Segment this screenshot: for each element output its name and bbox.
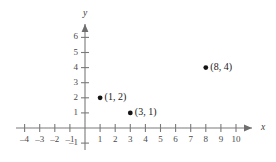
x-tick-label: 5 — [158, 134, 163, 144]
y-axis-ticks: –1123456 — [68, 31, 89, 147]
y-tick-label: –1 — [68, 137, 78, 147]
scatter-plot-svg: x y –4–3–2–112345678910 –1123456 (1, 2)(… — [0, 0, 276, 162]
y-axis-label: y — [82, 8, 88, 18]
data-point-marker — [98, 95, 103, 100]
x-tick-label: 3 — [128, 134, 133, 144]
y-axis-group: y — [82, 8, 89, 150]
data-point-label: (8, 4) — [210, 61, 232, 73]
y-tick-label: 1 — [74, 107, 79, 117]
x-axis-arrowhead — [244, 125, 252, 132]
x-tick-label: 1 — [98, 134, 103, 144]
x-tick-label: 7 — [188, 134, 193, 144]
x-tick-label: 9 — [219, 134, 224, 144]
x-axis-label: x — [260, 122, 266, 132]
y-tick-label: 3 — [74, 77, 79, 87]
x-tick-label: 6 — [173, 134, 178, 144]
y-tick-label: 6 — [74, 31, 79, 41]
y-tick-label: 2 — [74, 92, 79, 102]
x-tick-label: 10 — [232, 134, 242, 144]
x-tick-label: –4 — [19, 134, 30, 144]
x-tick-label: 8 — [204, 134, 209, 144]
x-axis-ticks: –4–3–2–112345678910 — [19, 124, 241, 144]
data-point-label: (3, 1) — [135, 106, 157, 118]
data-points: (1, 2)(3, 1)(8, 4) — [98, 61, 232, 118]
data-point-label: (1, 2) — [105, 91, 127, 103]
y-axis-arrowhead — [82, 24, 89, 32]
x-tick-label: –3 — [34, 134, 45, 144]
x-axis-group: x — [16, 122, 266, 132]
x-tick-label: –2 — [49, 134, 59, 144]
x-tick-label: 4 — [143, 134, 148, 144]
data-point-marker — [203, 65, 208, 70]
data-point-marker — [128, 111, 133, 116]
y-tick-label: 5 — [74, 47, 79, 57]
y-tick-label: 4 — [74, 62, 79, 72]
coordinate-plane-figure: x y –4–3–2–112345678910 –1123456 (1, 2)(… — [0, 0, 276, 162]
x-tick-label: 2 — [113, 134, 118, 144]
